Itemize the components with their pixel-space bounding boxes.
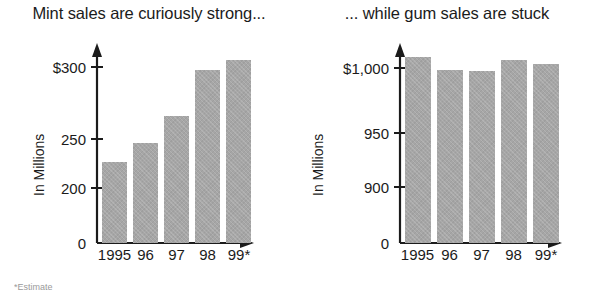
bar-97 xyxy=(469,71,495,243)
y-tick-label: 200 xyxy=(6,180,86,197)
x-tick-label: 97 xyxy=(464,246,499,263)
x-tick-label: 99* xyxy=(220,246,258,263)
y-tick-label: 250 xyxy=(6,131,86,148)
chart-panel-mint-sales: Mint sales are curiously strong... In Mi… xyxy=(0,0,298,275)
x-tick-label: 96 xyxy=(128,246,163,263)
bar-99 xyxy=(226,60,251,243)
chart-footnote: *Estimate xyxy=(14,282,574,291)
chart-panel-gum-sales: ... while gum sales are stuck In Million… xyxy=(298,0,596,275)
y-tick-label: $300 xyxy=(6,59,86,76)
bar-98 xyxy=(195,70,220,243)
plot-area-gum: In Millions $1,000 950 900 0 1995 96 97 … xyxy=(298,0,596,275)
x-tick-label: 97 xyxy=(159,246,194,263)
plot-area-mint: In Millions $300 250 200 0 1995 96 97 98… xyxy=(0,0,298,275)
bar-99 xyxy=(533,64,559,243)
two-panel-bar-chart-figure: Mint sales are curiously strong... In Mi… xyxy=(0,0,596,291)
bar-96 xyxy=(133,143,158,243)
x-tick-label: 98 xyxy=(496,246,531,263)
y-tick-label: $1,000 xyxy=(298,60,389,77)
y-tick-label: 0 xyxy=(298,235,389,252)
x-tick-label: 96 xyxy=(432,246,467,263)
bar-98 xyxy=(501,60,527,243)
y-tick-label: 950 xyxy=(298,125,389,142)
bar-1995 xyxy=(102,162,127,243)
bar-1995 xyxy=(405,57,431,243)
y-tick-label: 900 xyxy=(298,179,389,196)
y-tick-label: 0 xyxy=(6,235,86,252)
x-tick-label: 99* xyxy=(527,246,565,263)
bar-97 xyxy=(164,116,189,243)
bar-96 xyxy=(437,70,463,243)
